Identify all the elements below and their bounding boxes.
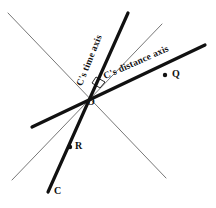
point-o-label: O (87, 97, 95, 107)
distance-axis-line (32, 45, 205, 127)
point-q-label: Q (172, 69, 180, 79)
point-r-dot (68, 145, 72, 149)
diagram-canvas (0, 0, 216, 208)
spacetime-diagram: C's time axis C's distance axis O Q R C (0, 0, 216, 208)
worldline-c-label: C (54, 186, 61, 196)
point-r-label: R (75, 141, 82, 151)
point-q-dot (163, 73, 167, 77)
